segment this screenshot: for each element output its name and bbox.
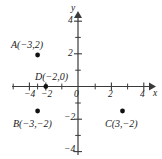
x-tick-label-4: 4 bbox=[140, 90, 145, 100]
y-tick-label-2: 2 bbox=[68, 49, 73, 59]
x-tick-label-minus-4: −4 bbox=[24, 90, 35, 100]
data-point-a bbox=[35, 53, 40, 58]
x-tick-label-2: 2 bbox=[108, 90, 113, 100]
y-tick-label-4: 4 bbox=[68, 16, 73, 26]
x-tick-label-minus-2: −2 bbox=[41, 90, 52, 100]
point-label-c: C(3,−2) bbox=[105, 119, 138, 129]
data-point-b bbox=[35, 109, 40, 114]
point-label-d: D(−2,0) bbox=[35, 72, 68, 82]
coordinate-axes-graphic bbox=[0, 0, 162, 159]
point-label-a: A(−3,2) bbox=[11, 40, 43, 50]
x-axis-name: x bbox=[153, 89, 157, 99]
y-axis-name: y bbox=[71, 4, 75, 14]
y-tick-label-minus-2: −2 bbox=[64, 113, 75, 123]
x-tick-label-zero: 0 bbox=[74, 90, 79, 100]
data-point-c bbox=[120, 109, 125, 114]
coordinate-plane-figure: −4 −2 0 2 4 4 2 −2 −4 x y A(−3,2) B(−3,−… bbox=[0, 0, 162, 159]
point-label-b: B(−3,−2) bbox=[13, 119, 52, 129]
y-tick-label-minus-4: −4 bbox=[64, 145, 75, 155]
